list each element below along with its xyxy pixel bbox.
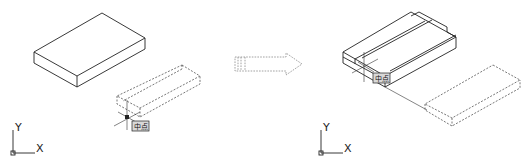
solid-box-right[interactable]	[343, 12, 456, 87]
ucs-icon-left: Y X	[11, 121, 44, 155]
midpoint-snap-tooltip-left: 中点	[132, 121, 149, 131]
dashed-box-left[interactable]	[117, 65, 200, 117]
move-leader-line	[385, 87, 427, 110]
x-axis-label-right: X	[344, 142, 352, 155]
y-axis-label-right: Y	[322, 121, 330, 134]
dashed-box-right[interactable]	[425, 65, 520, 126]
snap-tooltip-text-right: 中点	[375, 74, 389, 83]
midpoint-snap-tooltip-right: 中点	[373, 73, 390, 83]
snap-tooltip-text-left: 中点	[134, 122, 148, 131]
solid-box-left[interactable]	[34, 13, 145, 87]
transition-arrow	[235, 53, 302, 75]
y-axis-label-left: Y	[14, 121, 22, 134]
x-axis-label-left: X	[36, 142, 44, 155]
ucs-icon-right: Y X	[319, 121, 352, 155]
drawing-canvas[interactable]: 中点 Y X 中点	[0, 0, 527, 164]
